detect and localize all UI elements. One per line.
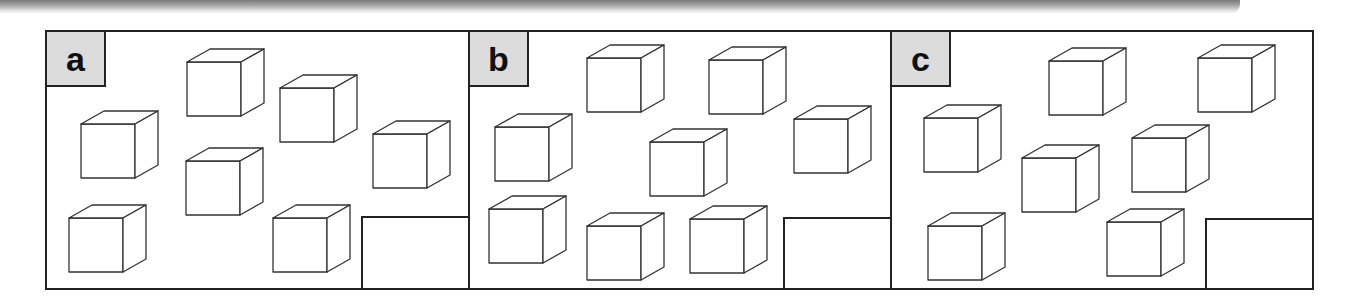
cube-icon — [587, 45, 664, 112]
cube-layer — [0, 0, 1352, 308]
cube-icon — [709, 47, 786, 114]
cube-icon — [69, 205, 146, 272]
cube-icon — [81, 111, 158, 178]
cube-icon — [650, 129, 727, 196]
cube-icon — [1132, 125, 1209, 192]
cube-icon — [186, 148, 263, 215]
cube-icon — [928, 213, 1005, 280]
cube-icon — [690, 206, 767, 273]
cube-icon — [587, 213, 664, 280]
cube-icon — [273, 205, 350, 272]
cube-icon — [280, 75, 357, 142]
cube-icon — [187, 49, 264, 116]
cube-icon — [1022, 145, 1099, 212]
cube-icon — [495, 114, 572, 181]
cube-icon — [794, 106, 871, 173]
cube-icon — [489, 196, 566, 263]
cube-icon — [1107, 209, 1184, 276]
cube-icon — [924, 105, 1001, 172]
cube-icon — [1049, 48, 1126, 115]
cube-icon — [373, 121, 450, 188]
cube-icon — [1198, 45, 1275, 112]
